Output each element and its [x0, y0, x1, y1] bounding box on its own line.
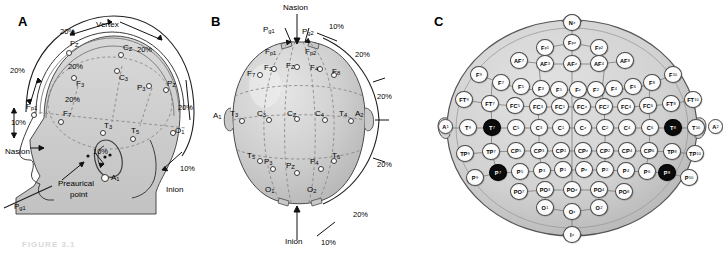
electrode-p8[interactable]: P8: [658, 164, 676, 181]
electrode-fz[interactable]: Fz: [569, 81, 587, 98]
electrode-p7[interactable]: P7: [489, 164, 507, 181]
electrode-fp1[interactable]: Fp1: [536, 39, 554, 56]
electrode-marker-a1[interactable]: [101, 174, 109, 182]
electrode-c4[interactable]: C4: [618, 119, 636, 136]
electrode-t9[interactable]: T9: [459, 119, 477, 136]
electrode-cp1[interactable]: CP1: [552, 142, 570, 159]
electrode-iz[interactable]: Iz: [563, 226, 581, 243]
electrode-cp4[interactable]: CP4: [618, 142, 636, 159]
electrode-t7[interactable]: T7: [483, 119, 501, 136]
electrode-cp6[interactable]: CP6: [640, 142, 658, 159]
electrode-c2[interactable]: C2: [596, 119, 614, 136]
electrode-marker-fp1[interactable]: [31, 112, 37, 118]
electrode-o1[interactable]: O1: [536, 199, 554, 216]
electrode-p9[interactable]: P9: [466, 169, 484, 186]
electrode-base-label: CP: [600, 148, 608, 154]
electrode-marker-t3[interactable]: [239, 118, 245, 124]
electrode-ft8[interactable]: FT8: [662, 95, 680, 112]
electrode-fc1[interactable]: FC1: [551, 98, 569, 115]
electrode-fc3[interactable]: FC3: [529, 98, 547, 115]
electrode-marker-p3[interactable]: [146, 83, 152, 89]
electrode-p6[interactable]: P6: [638, 163, 656, 180]
electrode-marker-fz[interactable]: [66, 50, 72, 56]
electrode-c1[interactable]: C1: [552, 119, 570, 136]
electrode-po4[interactable]: PO4: [590, 181, 608, 198]
electrode-p3[interactable]: P3: [533, 162, 551, 179]
electrode-c3[interactable]: C3: [530, 119, 548, 136]
electrode-marker-pz[interactable]: [294, 170, 300, 176]
electrode-a1[interactable]: A1: [438, 119, 453, 134]
electrode-p5[interactable]: P5: [511, 163, 529, 180]
electrode-label-cz: CZ: [123, 44, 132, 53]
electrode-poz[interactable]: POz: [563, 181, 581, 198]
electrode-o2[interactable]: O2: [590, 199, 608, 216]
electrode-af3[interactable]: AF3: [536, 55, 554, 72]
electrode-f7[interactable]: F7: [492, 74, 510, 91]
electrode-fp2[interactable]: Fp2: [590, 39, 608, 56]
electrode-nz[interactable]: Nz: [563, 14, 581, 31]
electrode-fcz[interactable]: FCz: [573, 98, 591, 115]
electrode-tp8[interactable]: TP8: [663, 143, 681, 160]
electrode-sub-label: 2: [597, 87, 599, 92]
electrode-marker-t5[interactable]: [130, 136, 136, 142]
electrode-f5[interactable]: F5: [512, 78, 530, 95]
electrode-fc5[interactable]: FC5: [506, 97, 524, 114]
electrode-f2[interactable]: F2: [587, 81, 605, 98]
electrode-c6[interactable]: C6: [641, 119, 659, 136]
electrode-af8[interactable]: AF8: [616, 52, 634, 69]
electrode-fc6[interactable]: FC6: [639, 97, 657, 114]
electrode-po7[interactable]: PO7: [510, 183, 528, 200]
electrode-cpz[interactable]: CPz: [574, 142, 592, 159]
electrode-marker-c3[interactable]: [266, 117, 272, 123]
electrode-p10[interactable]: P10: [680, 169, 698, 186]
electrode-marker-p4[interactable]: [318, 166, 324, 172]
electrode-oz[interactable]: Oz: [563, 203, 581, 220]
electrode-afz[interactable]: AFz: [563, 55, 581, 72]
electrode-t8[interactable]: T8: [664, 119, 682, 136]
electrode-a2[interactable]: A2: [708, 119, 723, 134]
electrode-c5[interactable]: C5: [507, 119, 525, 136]
electrode-marker-f7[interactable]: [58, 119, 64, 125]
electrode-fpz[interactable]: Fpz: [563, 34, 581, 51]
electrode-tp9[interactable]: TP9: [456, 145, 474, 162]
electrode-marker-t4[interactable]: [348, 118, 354, 124]
electrode-p2[interactable]: P2: [596, 161, 614, 178]
electrode-pz[interactable]: Pz: [575, 161, 593, 178]
electrode-sub-label: z: [585, 104, 587, 109]
electrode-p4[interactable]: P4: [617, 162, 635, 179]
electrode-f9[interactable]: F9: [470, 66, 488, 83]
electrode-sub-label: 2: [600, 205, 602, 210]
electrode-sub-label: z: [575, 187, 577, 192]
electrode-fc2[interactable]: FC2: [595, 98, 613, 115]
pct-label: 10%: [321, 238, 336, 247]
electrode-t10[interactable]: T10: [687, 119, 705, 136]
electrode-f10[interactable]: F10: [664, 66, 682, 83]
electrode-label-c4: C4: [315, 110, 324, 119]
electrode-f8[interactable]: F8: [643, 74, 661, 91]
electrode-cp2[interactable]: CP2: [596, 142, 614, 159]
electrode-marker-fz[interactable]: [294, 64, 300, 70]
electrode-tp10[interactable]: TP10: [686, 145, 704, 162]
electrode-fc4[interactable]: FC4: [617, 98, 635, 115]
pct-label: 10%: [93, 147, 108, 156]
electrode-tp7[interactable]: TP7: [482, 143, 500, 160]
electrode-ft7[interactable]: FT7: [481, 95, 499, 112]
electrode-po3[interactable]: PO3: [536, 181, 554, 198]
electrode-sub-label: 5: [518, 103, 520, 108]
electrode-p1[interactable]: P1: [554, 161, 572, 178]
electrode-marker-t5[interactable]: [257, 158, 263, 164]
electrode-cp3[interactable]: CP3: [530, 142, 548, 159]
electrode-label-fz: FZ: [70, 40, 78, 49]
electrode-f4[interactable]: F4: [605, 80, 623, 97]
electrode-af4[interactable]: AF4: [590, 55, 608, 72]
electrode-af7[interactable]: AF7: [510, 52, 528, 69]
electrode-ft9[interactable]: FT9: [455, 91, 473, 108]
electrode-marker-f7[interactable]: [257, 72, 263, 78]
electrode-f3[interactable]: F3: [532, 80, 550, 97]
electrode-po8[interactable]: PO8: [615, 183, 633, 200]
electrode-f1[interactable]: F1: [550, 81, 568, 98]
electrode-f6[interactable]: F6: [624, 78, 642, 95]
electrode-cz[interactable]: Cz: [574, 119, 592, 136]
electrode-ft10[interactable]: FT10: [684, 91, 702, 108]
electrode-cp5[interactable]: CP5: [507, 142, 525, 159]
